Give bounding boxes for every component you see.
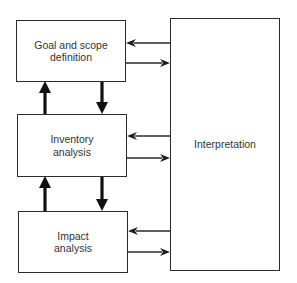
arrow-impact-to-interpretation — [128, 248, 170, 256]
inventory-analysis-box: Inventory analysis — [17, 114, 127, 177]
inventory-label-line2: analysis — [50, 146, 93, 159]
impact-analysis-label: Impact analysis — [54, 230, 92, 255]
impact-label-line2: analysis — [54, 242, 92, 255]
interpretation-box: Interpretation — [170, 18, 280, 271]
arrow-goal-to-interpretation — [125, 59, 170, 67]
impact-label-line1: Impact — [54, 230, 92, 243]
arrow-interpretation-to-impact — [128, 227, 170, 235]
impact-analysis-box: Impact analysis — [18, 211, 128, 273]
arrow-inventory-to-impact — [96, 176, 108, 211]
goal-label-line2: definition — [34, 51, 108, 64]
goal-and-scope-label: Goal and scope definition — [34, 39, 108, 64]
interpretation-label: Interpretation — [194, 138, 256, 151]
arrow-interpretation-to-goal — [126, 39, 170, 47]
arrow-inventory-to-interpretation — [126, 154, 170, 162]
goal-label-line1: Goal and scope — [34, 39, 108, 52]
inventory-analysis-label: Inventory analysis — [50, 133, 93, 158]
arrow-inventory-to-goal — [39, 81, 51, 114]
arrow-goal-to-inventory — [96, 81, 108, 114]
goal-and-scope-box: Goal and scope definition — [16, 20, 126, 82]
arrow-impact-to-inventory — [39, 176, 51, 211]
inventory-label-line1: Inventory — [50, 133, 93, 146]
arrow-interpretation-to-inventory — [127, 132, 170, 140]
